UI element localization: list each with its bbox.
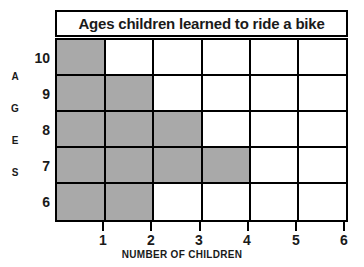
bar-age-10 [57, 40, 105, 74]
x-tick-label-5: 5 [286, 233, 306, 247]
x-tick-mark-5 [295, 222, 297, 231]
x-axis-title: NUMBER OF CHILDREN [0, 250, 364, 260]
gridline-x-2 [152, 40, 154, 220]
x-tick-label-1: 1 [93, 233, 113, 247]
x-tick-mark-3 [199, 222, 201, 231]
y-axis-letter-g: G [8, 104, 22, 114]
y-tick-label-6: 6 [22, 195, 50, 209]
gridline-x-1 [104, 40, 106, 220]
x-tick-label-3: 3 [189, 233, 209, 247]
x-tick-label-6: 6 [334, 233, 354, 247]
y-tick-label-8: 8 [22, 123, 50, 137]
x-tick-mark-4 [247, 222, 249, 231]
x-tick-mark-1 [102, 222, 104, 231]
gridline-x-3 [201, 40, 203, 220]
page-title: Ages children learned to ride a bike [78, 16, 324, 31]
x-tick-mark-2 [150, 222, 152, 231]
x-tick-label-2: 2 [141, 233, 161, 247]
x-tick-mark-6 [343, 222, 345, 231]
bar-chart: Ages children learned to ride a bike A G… [0, 0, 364, 267]
gridline-x-5 [297, 40, 299, 220]
y-tick-label-10: 10 [22, 51, 50, 65]
x-tick-label-4: 4 [237, 233, 257, 247]
y-tick-label-7: 7 [22, 159, 50, 173]
chart-title-box: Ages children learned to ride a bike [55, 10, 348, 37]
y-axis-letter-s: S [8, 168, 22, 178]
plot-area [55, 38, 348, 222]
y-axis-letter-e: E [8, 136, 22, 146]
y-axis-letter-a: A [8, 72, 22, 82]
bar-age-8 [57, 112, 202, 146]
gridline-x-4 [249, 40, 251, 220]
y-tick-label-9: 9 [22, 87, 50, 101]
